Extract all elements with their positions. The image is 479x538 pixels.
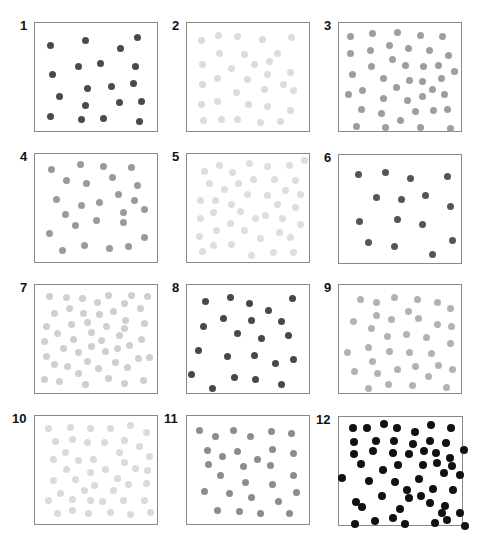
dot-icon	[252, 215, 259, 222]
dot-icon	[429, 485, 437, 493]
dot-icon	[52, 438, 59, 445]
dot-icon	[140, 377, 147, 384]
dot-icon	[100, 115, 107, 122]
dot-icon	[456, 471, 464, 479]
dot-icon	[228, 241, 235, 248]
dot-icon	[389, 514, 397, 522]
dot-icon	[62, 449, 69, 456]
dot-icon	[248, 494, 255, 501]
dot-icon	[287, 107, 294, 114]
dot-icon	[54, 510, 61, 517]
dot-icon	[419, 221, 426, 228]
dot-icon	[435, 362, 442, 369]
dot-icon	[285, 332, 292, 339]
dot-icon	[444, 173, 451, 180]
panel-label: 10	[12, 412, 26, 425]
dot-icon	[242, 479, 249, 486]
dot-icon	[403, 331, 410, 338]
dot-icon	[125, 243, 132, 250]
dot-icon	[128, 292, 135, 299]
dot-icon	[212, 197, 219, 204]
dot-icon	[121, 300, 128, 307]
dot-icon	[252, 376, 259, 383]
panel-label: 2	[172, 19, 179, 32]
dot-icon	[266, 58, 273, 65]
dot-icon	[78, 116, 85, 123]
dot-icon	[75, 349, 82, 356]
dot-icon	[373, 194, 380, 201]
dot-icon	[402, 62, 409, 69]
panel-label: 11	[164, 412, 178, 425]
dot-icon	[212, 433, 219, 440]
dot-icon	[141, 206, 148, 213]
dot-icon	[250, 176, 257, 183]
dot-icon	[200, 117, 207, 124]
dot-icon	[206, 180, 213, 187]
dot-icon	[430, 107, 437, 114]
dot-icon	[147, 509, 154, 516]
dot-icon	[420, 63, 427, 70]
dot-icon	[278, 381, 285, 388]
dot-icon	[46, 293, 53, 300]
dot-icon	[69, 507, 76, 514]
dot-icon	[368, 63, 375, 70]
dot-icon	[391, 294, 398, 301]
dot-icon	[146, 453, 153, 460]
panel-box-6	[338, 154, 462, 264]
dot-icon	[237, 208, 244, 215]
dot-icon	[234, 448, 241, 455]
dot-icon	[82, 102, 89, 109]
dot-icon	[109, 174, 116, 181]
dot-icon	[290, 87, 297, 94]
dot-icon	[213, 227, 220, 234]
dot-icon	[116, 449, 123, 456]
dot-icon	[369, 447, 377, 455]
dot-icon	[116, 332, 123, 339]
dot-icon	[100, 163, 107, 170]
dot-icon	[143, 480, 150, 487]
dot-icon	[196, 427, 203, 434]
dot-icon	[231, 374, 238, 381]
dot-icon	[114, 475, 121, 482]
dot-icon	[195, 347, 202, 354]
dot-icon	[226, 490, 233, 497]
dot-icon	[449, 486, 457, 494]
dot-icon	[274, 201, 281, 208]
dot-icon	[51, 361, 58, 368]
dot-icon	[59, 247, 66, 254]
dot-icon	[347, 33, 354, 40]
dot-icon	[50, 456, 57, 463]
dot-icon	[433, 459, 441, 467]
dot-icon	[87, 425, 94, 432]
panel-box-1	[34, 22, 158, 132]
dot-icon	[415, 475, 423, 483]
dot-icon	[449, 366, 456, 373]
dot-icon	[90, 456, 97, 463]
dot-icon	[401, 520, 409, 528]
dot-icon	[72, 476, 79, 483]
dot-icon	[447, 203, 454, 210]
dot-icon	[292, 204, 299, 211]
dot-icon	[84, 319, 91, 326]
dot-icon	[108, 83, 115, 90]
dot-icon	[271, 176, 278, 183]
dot-icon	[350, 450, 358, 458]
dot-icon	[426, 499, 434, 507]
dot-icon	[447, 424, 455, 432]
dot-icon	[201, 168, 208, 175]
dot-icon	[365, 239, 372, 246]
dot-icon	[449, 237, 456, 244]
dot-icon	[127, 422, 134, 429]
dot-icon	[102, 348, 109, 355]
dot-icon	[121, 325, 128, 332]
dot-icon	[419, 78, 426, 85]
panel-box-9	[338, 284, 462, 394]
dot-icon	[380, 420, 388, 428]
dot-icon	[417, 492, 425, 500]
dot-icon	[363, 424, 371, 432]
dot-icon	[85, 510, 92, 517]
panel-box-11	[186, 415, 310, 525]
dot-icon	[412, 108, 419, 115]
dot-icon	[56, 378, 63, 385]
dot-icon	[386, 42, 393, 49]
